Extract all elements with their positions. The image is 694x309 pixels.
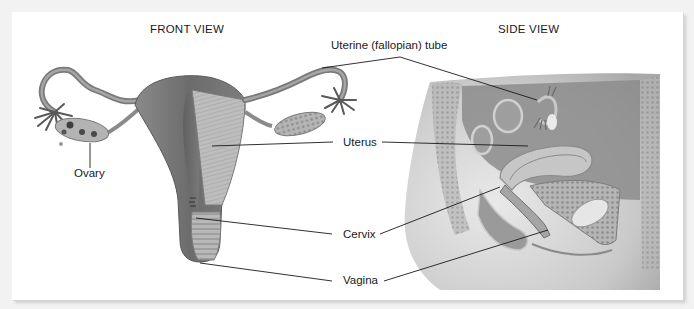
side-view-title: SIDE VIEW bbox=[498, 24, 559, 36]
leader-uterine-tube-front bbox=[322, 57, 400, 68]
label-uterus: Uterus bbox=[343, 137, 377, 149]
label-vagina: Vagina bbox=[343, 275, 378, 287]
label-ovary: Ovary bbox=[74, 168, 105, 180]
label-uterine-tube: Uterine (fallopian) tube bbox=[331, 40, 447, 52]
right-fimbriae bbox=[322, 88, 356, 114]
label-cervix: Cervix bbox=[343, 229, 376, 241]
side-view-illustration bbox=[405, 73, 660, 290]
front-view-illustration bbox=[35, 70, 356, 262]
leader-vagina-front bbox=[200, 263, 332, 281]
front-view-title: FRONT VIEW bbox=[150, 24, 224, 36]
